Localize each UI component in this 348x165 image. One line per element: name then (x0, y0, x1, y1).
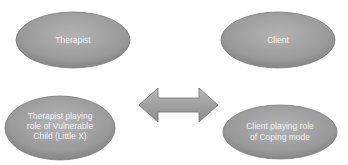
node-label: Therapist (55, 35, 91, 45)
node-label-line-2: of Coping mode (250, 132, 310, 142)
node-label-line-3: Child (Little X) (33, 131, 87, 141)
node-label-line-2: role of Vulnerable (27, 121, 94, 131)
node-client-coping-mode: Client playing role of Coping mode (223, 105, 337, 159)
node-label-line-1: Client playing role (246, 121, 314, 131)
node-label: Client (267, 35, 289, 45)
node-label-line-1: Therapist playing (28, 111, 93, 121)
node-client: Client (221, 12, 335, 68)
diagram-canvas: Therapist Client Therapist playing role … (0, 0, 348, 165)
node-therapist-vulnerable-child: Therapist playing role of Vulnerable Chi… (5, 96, 115, 160)
node-therapist: Therapist (16, 12, 130, 68)
double-arrow-icon (139, 88, 218, 122)
